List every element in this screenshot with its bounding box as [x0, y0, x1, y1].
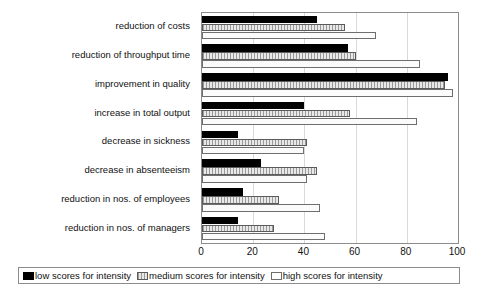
- category-label: improvement in quality: [0, 79, 190, 89]
- x-tick-label: 60: [349, 246, 360, 258]
- category-axis: reduction of costsreduction of throughpu…: [0, 12, 196, 244]
- bar-low: [202, 16, 317, 24]
- bar-medium: [202, 81, 445, 89]
- bar-medium: [202, 110, 350, 118]
- legend-label: high scores for intensity: [283, 271, 383, 281]
- category-label: decrease in sickness: [0, 136, 190, 146]
- category-label: decrease in absenteeism: [0, 165, 190, 175]
- bar-medium: [202, 24, 345, 32]
- bar-low: [202, 73, 448, 81]
- bar-group: [202, 13, 458, 42]
- bar-low: [202, 102, 304, 110]
- bar-high: [202, 32, 376, 40]
- legend-swatch-icon: [137, 272, 148, 280]
- bar-high: [202, 118, 417, 126]
- bar-chart-figure: reduction of costsreduction of throughpu…: [0, 0, 490, 300]
- bar-high: [202, 175, 307, 183]
- bar-medium: [202, 139, 307, 147]
- bar-high: [202, 60, 420, 68]
- bar-high: [202, 89, 453, 97]
- x-tick-label: 100: [449, 246, 466, 258]
- x-tick-label: 80: [400, 246, 411, 258]
- bar-high: [202, 204, 320, 212]
- x-axis: 020406080100: [201, 246, 459, 262]
- bar-group: [202, 157, 458, 186]
- category-label: reduction in nos. of managers: [0, 223, 190, 233]
- bar-group: [202, 71, 458, 100]
- legend-label: medium scores for intensity: [149, 271, 265, 281]
- x-tick-label: 0: [198, 246, 204, 258]
- legend-label: low scores for intensity: [35, 271, 131, 281]
- legend-entry: medium scores for intensity: [137, 271, 265, 281]
- bar-high: [202, 147, 304, 155]
- legend-swatch-icon: [23, 272, 34, 280]
- category-label: reduction of throughput time: [0, 50, 190, 60]
- category-label: reduction in nos. of employees: [0, 194, 190, 204]
- plot-area: [201, 12, 459, 244]
- chart-legend: low scores for intensitymedium scores fo…: [18, 267, 460, 284]
- bar-low: [202, 44, 348, 52]
- bar-group: [202, 214, 458, 243]
- legend-entry: high scores for intensity: [271, 271, 383, 281]
- bar-group: [202, 186, 458, 215]
- legend-entry: low scores for intensity: [23, 271, 131, 281]
- bar-low: [202, 188, 243, 196]
- bar-medium: [202, 225, 274, 233]
- bar-group: [202, 128, 458, 157]
- bar-medium: [202, 167, 317, 175]
- x-tick-label: 20: [247, 246, 258, 258]
- bar-medium: [202, 52, 356, 60]
- bar-low: [202, 217, 238, 225]
- bar-group: [202, 42, 458, 71]
- bar-low: [202, 131, 238, 139]
- legend-swatch-icon: [271, 272, 282, 280]
- bar-low: [202, 159, 261, 167]
- bar-group: [202, 99, 458, 128]
- bar-medium: [202, 196, 279, 204]
- bar-high: [202, 233, 325, 241]
- x-tick-label: 40: [298, 246, 309, 258]
- category-label: reduction of costs: [0, 21, 190, 31]
- category-label: increase in total output: [0, 108, 190, 118]
